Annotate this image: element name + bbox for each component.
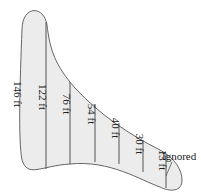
width-label: 146 ft bbox=[12, 81, 24, 107]
width-label: 76 ft bbox=[61, 94, 73, 114]
ignored-annotation: Ignored bbox=[162, 150, 197, 162]
width-label: 30 ft bbox=[134, 134, 146, 154]
width-label: 122 ft bbox=[37, 84, 49, 110]
width-label: 40 ft bbox=[110, 118, 122, 138]
width-label: 54 ft bbox=[86, 104, 98, 124]
land-area-diagram: 146 ft122 ft76 ft54 ft40 ft30 ft13 ft Ig… bbox=[0, 0, 201, 195]
